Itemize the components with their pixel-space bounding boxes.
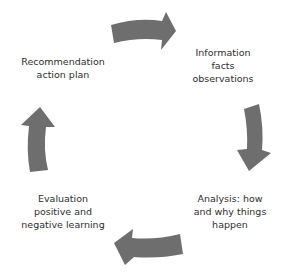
node-evaluation-line-1: Evaluation [21,192,104,205]
arrow-left-icon [114,229,183,265]
node-evaluation: Evaluation positive and negative learnin… [21,192,104,231]
node-analysis-line-1: Analysis: how [194,192,267,205]
arrow-right-icon [111,12,176,50]
node-evaluation-line-2: positive and [21,205,104,218]
node-analysis: Analysis: how and why things happen [194,192,267,231]
arrow-down-icon [237,104,271,171]
cycle-arrows [0,0,286,277]
node-recommendation-line-2: action plan [21,68,104,81]
node-analysis-line-3: happen [194,218,267,231]
node-evaluation-line-3: negative learning [21,218,104,231]
node-information-line-3: observations [192,72,253,85]
node-analysis-line-2: and why things [194,205,267,218]
node-information-line-1: Information [192,46,253,59]
node-recommendation: Recommendation action plan [21,55,104,81]
node-information-line-2: facts [192,59,253,72]
arrow-up-icon [21,107,55,172]
reflective-cycle-diagram: Information facts observations Analysis:… [0,0,286,277]
node-information: Information facts observations [192,46,253,85]
node-recommendation-line-1: Recommendation [21,55,104,68]
